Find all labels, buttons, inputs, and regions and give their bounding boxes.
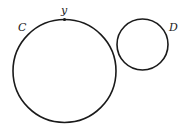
label-d: D (168, 21, 178, 34)
circle-c (13, 20, 116, 123)
circle-d (117, 19, 168, 70)
circles-diagram: C D y (0, 0, 187, 128)
label-y: y (60, 4, 68, 17)
point-y (63, 18, 66, 21)
label-c: C (18, 21, 27, 34)
